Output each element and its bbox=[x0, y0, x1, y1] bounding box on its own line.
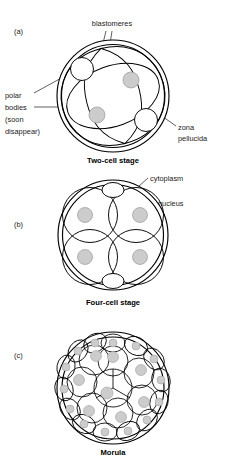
label-polar-bodies-line3: (soon bbox=[5, 115, 24, 124]
label-polar-bodies-line2: bodies bbox=[5, 103, 27, 112]
caption-morula: Morula bbox=[101, 448, 127, 457]
caption-two-cell-stage: Two-cell stage bbox=[87, 156, 139, 165]
label-polar-bodies-line4: disappear) bbox=[5, 127, 40, 136]
embryo-cleavage-figure: (a) blastomeres polar bodies (soon disap… bbox=[0, 0, 225, 474]
label-zona-line2: pellucida bbox=[178, 134, 208, 143]
panel-two-cell-stage: (a) blastomeres polar bodies (soon disap… bbox=[0, 0, 225, 165]
panel-tag-a: (a) bbox=[14, 27, 23, 36]
panel-tag-c: (c) bbox=[14, 351, 23, 360]
panel-four-cell-stage: (b) cytoplasm nucleus Four-cell stage bbox=[0, 165, 225, 310]
panel-morula: (c) bbox=[0, 310, 225, 474]
label-zona-line1: zona bbox=[178, 123, 195, 132]
caption-four-cell-stage: Four-cell stage bbox=[86, 298, 140, 307]
label-cytoplasm: cytoplasm bbox=[150, 174, 183, 183]
label-blastomeres: blastomeres bbox=[92, 19, 133, 28]
panel-tag-b: (b) bbox=[14, 220, 23, 229]
zona-pellucida-two-cell bbox=[57, 40, 169, 152]
label-polar-bodies-line1: polar bbox=[5, 91, 22, 100]
